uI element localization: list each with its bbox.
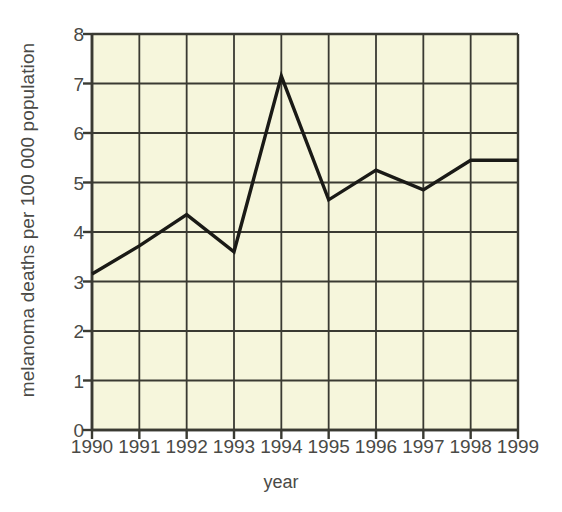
x-axis-tick-labels: 1990199119921993199419951996199719981999 (0, 437, 562, 465)
chart-figure: melanoma deaths per 100 000 population 0… (0, 0, 562, 512)
x-tick-label: 1990 (71, 437, 113, 456)
x-tick-label: 1992 (166, 437, 208, 456)
x-tick-label: 1991 (118, 437, 160, 456)
x-tick-label: 1996 (355, 437, 397, 456)
y-axis-ticks (83, 34, 92, 430)
x-axis-title: year (0, 472, 562, 493)
x-tick-label: 1997 (402, 437, 444, 456)
x-tick-label: 1993 (213, 437, 255, 456)
x-tick-label: 1995 (308, 437, 350, 456)
x-tick-label: 1994 (260, 437, 302, 456)
x-tick-label: 1998 (450, 437, 492, 456)
x-tick-label: 1999 (497, 437, 539, 456)
